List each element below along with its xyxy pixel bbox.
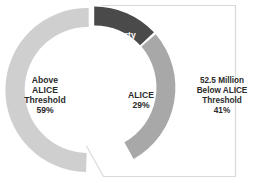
slice-value-alice: 29% xyxy=(132,100,150,110)
slice-label-alice: ALICE xyxy=(128,90,154,100)
slice-label-above-line2: ALICE xyxy=(32,85,58,95)
donut-chart: Poverty 13% ALICE 29% Above ALICE Thresh… xyxy=(0,0,261,183)
slice-label-above-line1: Above xyxy=(32,75,58,85)
callout-line2: Below ALICE xyxy=(197,86,248,95)
callout-line1: 52.5 Million xyxy=(200,76,244,85)
chart-container: Poverty 13% ALICE 29% Above ALICE Thresh… xyxy=(0,0,261,183)
slice-value-above: 59% xyxy=(36,105,54,115)
slice-label-above-line3: Threshold xyxy=(24,95,66,105)
callout-line4: 41% xyxy=(214,106,231,115)
slice-label-poverty: Poverty xyxy=(104,30,136,40)
callout-line3: Threshold xyxy=(202,96,242,105)
slice-value-poverty: 13% xyxy=(111,40,129,50)
